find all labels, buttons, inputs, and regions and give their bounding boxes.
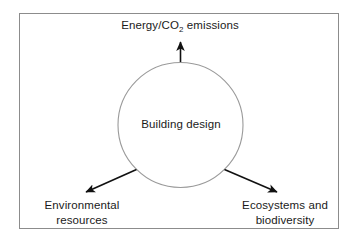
label-energy-co2-emissions: Energy/CO2 emissions (60, 18, 300, 35)
label-environmental-resources-line1: Environmental (22, 198, 142, 213)
label-ecosystems-biodiversity: Ecosystems and biodiversity (225, 198, 345, 227)
label-building-design: Building design (121, 117, 241, 132)
label-environmental-resources: Environmental resources (22, 198, 142, 227)
label-energy-co2-subscript: 2 (179, 25, 184, 34)
figure-root: Energy/CO2 emissions Building design Env… (0, 0, 358, 250)
arrow-ecosystems-biodiversity (225, 170, 278, 193)
label-ecosystems-biodiversity-line1: Ecosystems and (225, 198, 345, 213)
label-building-design-text: Building design (141, 118, 221, 130)
label-ecosystems-biodiversity-line2: biodiversity (225, 213, 345, 228)
arrow-environmental-resources (86, 170, 137, 193)
label-energy-co2-prefix: Energy/CO (121, 19, 179, 31)
label-energy-co2-suffix: emissions (184, 19, 239, 31)
label-environmental-resources-line2: resources (22, 213, 142, 228)
